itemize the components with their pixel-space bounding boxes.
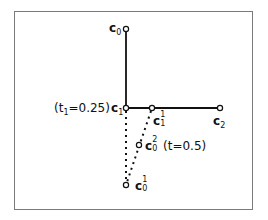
label-c11: c11 — [153, 115, 166, 127]
point-c2 — [217, 105, 222, 110]
diagram-canvas — [0, 0, 268, 220]
point-c11 — [149, 105, 154, 110]
annotation-t: (t=0.5) — [163, 140, 206, 152]
point-c0 — [123, 26, 128, 31]
annotation-t1: (t1=0.25) — [54, 102, 110, 114]
point-c02 — [136, 142, 141, 147]
label-c0: c0 — [109, 22, 121, 34]
label-c1: c1 — [111, 102, 123, 114]
label-c2: c2 — [213, 115, 225, 127]
point-c01 — [123, 182, 128, 187]
point-c1 — [123, 105, 128, 110]
label-c02: c20 — [145, 140, 158, 152]
label-c01: c10 — [135, 180, 148, 192]
